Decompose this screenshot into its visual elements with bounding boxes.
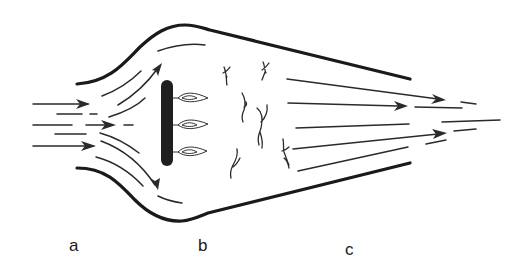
flame-icon <box>173 120 208 129</box>
turbulence-marks <box>223 62 289 178</box>
region-label-b: b <box>198 236 207 256</box>
inlet-flow-lines <box>33 99 133 151</box>
exhaust-flow-lines <box>287 79 500 171</box>
upper-streamlines <box>102 44 205 117</box>
flame-icon <box>173 93 208 102</box>
flames <box>173 93 208 156</box>
flame-icon <box>173 147 207 156</box>
region-label-a: a <box>69 236 78 256</box>
flame-holder <box>161 80 173 166</box>
duct-flow-diagram <box>0 0 528 272</box>
region-label-c: c <box>345 240 354 260</box>
upper-wall <box>77 25 410 84</box>
